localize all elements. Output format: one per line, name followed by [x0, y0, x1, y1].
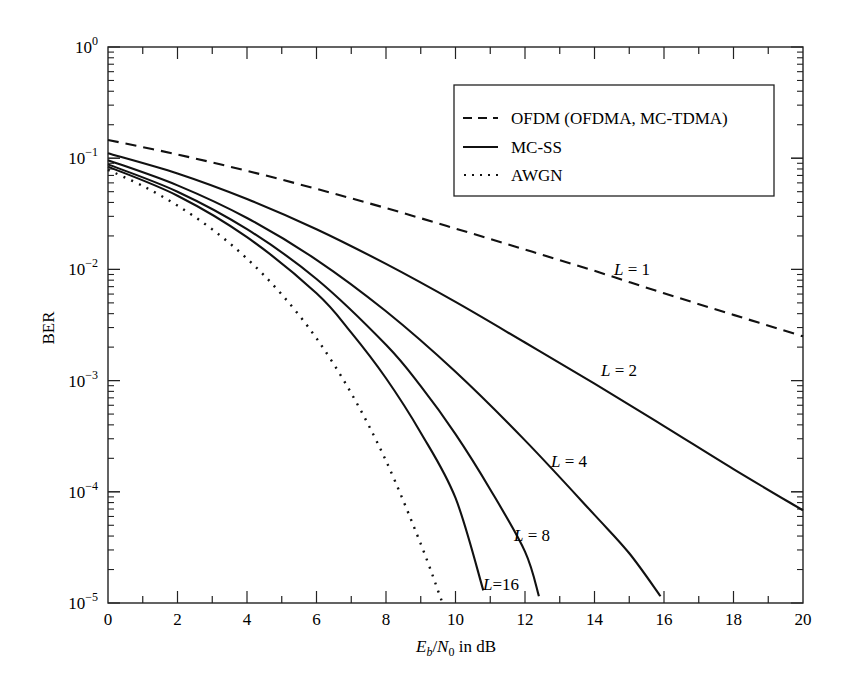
y-tick-label: 100 [75, 34, 98, 57]
legend-entry-awgn: AWGN [511, 166, 563, 185]
y-tick-label: 10−4 [68, 479, 98, 502]
curve-mc-ss-l-2 [108, 153, 803, 510]
curve-label: L = 1 [613, 260, 650, 279]
x-tick-label: 14 [586, 610, 604, 629]
curve-label: L = 4 [550, 452, 588, 471]
x-tick-label: 10 [447, 610, 464, 629]
ber-chart: 0246810121416182010010−110−210−310−410−5… [0, 0, 842, 695]
y-axis-label: BER [39, 311, 58, 345]
x-label-E: E [415, 637, 427, 656]
curve-mc-ss-l-16 [108, 167, 483, 591]
legend: OFDM (OFDMA, MC-TDMA) MC-SS AWGN [454, 85, 774, 196]
x-tick-label: 8 [382, 610, 391, 629]
x-tick-label: 6 [312, 610, 321, 629]
curve-annotations: L = 1L = 2L = 4L = 8L=16 [482, 260, 650, 594]
curve-label: L = 8 [513, 526, 550, 545]
curves [108, 140, 803, 601]
x-axis-label: Eb/N0 in dB [415, 637, 496, 659]
x-tick-label: 12 [517, 610, 534, 629]
x-tick-label: 18 [725, 610, 742, 629]
y-tick-label: 10−5 [68, 590, 98, 613]
y-tick-label: 10−1 [68, 145, 98, 168]
legend-entry-ofdm: OFDM (OFDMA, MC-TDMA) [511, 109, 728, 128]
x-tick-label: 20 [795, 610, 812, 629]
curve-mc-ss-l-8 [108, 164, 539, 596]
curve-mc-ss-l-4 [108, 160, 661, 596]
curve-label: L=16 [482, 575, 519, 594]
x-tick-label: 16 [656, 610, 673, 629]
legend-entry-mcss: MC-SS [511, 138, 562, 157]
x-tick-label: 4 [243, 610, 252, 629]
x-tick-label: 2 [173, 610, 182, 629]
x-tick-label: 0 [104, 610, 113, 629]
y-tick-label: 10−3 [68, 368, 98, 391]
x-label-rest: in dB [454, 637, 496, 656]
y-tick-label: 10−2 [68, 256, 98, 279]
curve-label: L = 2 [600, 361, 637, 380]
legend-box [454, 85, 774, 196]
